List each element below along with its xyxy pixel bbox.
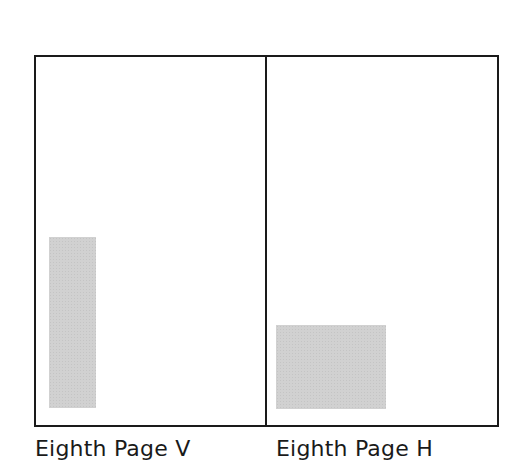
eighth-page-horizontal-label: Eighth Page H	[276, 434, 433, 464]
eighth-page-vertical-ad-block	[49, 237, 96, 408]
panel-divider	[265, 56, 267, 425]
eighth-page-vertical-label: Eighth Page V	[35, 434, 190, 464]
eighth-page-horizontal-ad-block	[276, 325, 386, 409]
